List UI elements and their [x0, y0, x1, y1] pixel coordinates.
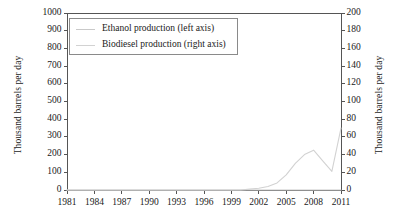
- right-axis-tick-label: 80: [347, 113, 381, 123]
- left-axis-title: Thousand barrels per day: [13, 25, 23, 185]
- left-axis-tick-label: 100: [28, 166, 62, 176]
- left-axis-tick-label: 800: [28, 42, 62, 52]
- left-axis-tick-label: 600: [28, 77, 62, 87]
- legend-label-ethanol: Ethanol production (left axis): [102, 24, 214, 34]
- right-axis-tick-label: 0: [347, 184, 381, 194]
- x-axis-tick-label: 2011: [321, 197, 361, 207]
- chart-legend: Ethanol production (left axis) Biodiesel…: [69, 18, 238, 55]
- right-axis-tick-label: 200: [347, 7, 381, 17]
- right-axis-tick-label: 140: [347, 60, 381, 70]
- legend-item-ethanol: Ethanol production (left axis): [76, 21, 214, 37]
- series-line-biodiesel: [67, 128, 341, 190]
- right-axis-tick-label: 160: [347, 42, 381, 52]
- left-axis-tick-label: 400: [28, 113, 62, 123]
- left-axis-tick-label: 500: [28, 95, 62, 105]
- left-axis-tick-label: 700: [28, 60, 62, 70]
- right-axis-tick-label: 100: [347, 95, 381, 105]
- chart-figure: Thousand barrels per day Thousand barrel…: [0, 0, 399, 219]
- right-axis-tick-label: 40: [347, 148, 381, 158]
- left-axis-tick-label: 1000: [28, 7, 62, 17]
- right-axis-tick-label: 20: [347, 166, 381, 176]
- right-axis-tick-label: 120: [347, 77, 381, 87]
- legend-item-biodiesel: Biodiesel production (right axis): [76, 37, 226, 53]
- right-axis-tick-label: 180: [347, 24, 381, 34]
- left-axis-tick-label: 200: [28, 148, 62, 158]
- legend-swatch-ethanol: [76, 29, 95, 30]
- left-axis-tick-label: 300: [28, 130, 62, 140]
- left-axis-tick-label: 900: [28, 24, 62, 34]
- legend-swatch-biodiesel: [76, 45, 95, 46]
- legend-label-biodiesel: Biodiesel production (right axis): [102, 40, 226, 50]
- right-axis-tick-label: 60: [347, 130, 381, 140]
- left-axis-tick-label: 0: [28, 184, 62, 194]
